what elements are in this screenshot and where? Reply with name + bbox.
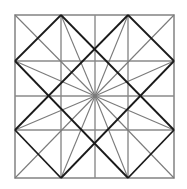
corner-diagonal	[15, 15, 95, 96]
geometric-pattern-diagram	[0, 0, 187, 189]
corner-diagonal	[15, 96, 95, 178]
corner-diagonal	[95, 15, 174, 96]
corner-diagonal	[95, 96, 174, 178]
